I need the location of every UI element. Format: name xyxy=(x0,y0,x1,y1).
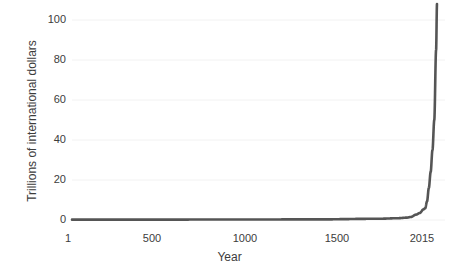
y-tick-60: 60 xyxy=(40,94,66,105)
y-tick-label: 60 xyxy=(40,94,66,105)
y-tick-label: 20 xyxy=(40,174,66,185)
x-tick-label: 1 xyxy=(65,232,71,244)
x-tick-500: 500 xyxy=(122,228,182,246)
y-axis-title-container: Trillions of international dollars xyxy=(22,21,38,221)
chart-figure: 100 80 60 40 20 0 1 500 1000 1500 xyxy=(0,0,459,277)
x-tick-2015: 2015 xyxy=(392,228,452,246)
gridlines xyxy=(72,20,445,220)
y-tick-20: 20 xyxy=(40,174,66,185)
x-tick-label: 500 xyxy=(143,232,161,244)
y-tick-40: 40 xyxy=(40,134,66,145)
y-tick-label: 80 xyxy=(40,54,66,65)
y-tick-label: 40 xyxy=(40,134,66,145)
x-tick-label: 1000 xyxy=(233,232,257,244)
x-tick-label: 1500 xyxy=(325,232,349,244)
y-axis-title: Trillions of international dollars xyxy=(25,40,39,202)
series-line-world-gdp xyxy=(72,4,437,220)
y-tick-0: 0 xyxy=(40,214,66,225)
x-tick-1000: 1000 xyxy=(215,228,275,246)
x-tick-label: 2015 xyxy=(410,232,434,244)
x-axis-title: Year xyxy=(0,250,459,264)
y-tick-label: 100 xyxy=(40,14,66,25)
x-tick-1500: 1500 xyxy=(307,228,367,246)
y-tick-80: 80 xyxy=(40,54,66,65)
x-tick-1: 1 xyxy=(38,228,98,246)
data-series-world-gdp xyxy=(72,4,437,220)
y-tick-label: 0 xyxy=(40,214,66,225)
y-tick-100: 100 xyxy=(40,14,66,25)
